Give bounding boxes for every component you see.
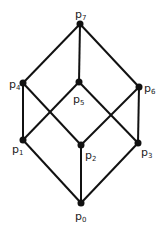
label-p4: p4 — [9, 78, 21, 92]
edge-p7-p4 — [23, 24, 80, 83]
label-p2: p2 — [85, 149, 96, 163]
node-p6 — [136, 84, 143, 91]
edge-p7-p5 — [79, 24, 80, 82]
hasse-diagram: p0p1p2p3p4p5p6p7 — [0, 0, 162, 233]
label-p5: p5 — [73, 93, 84, 107]
node-p5 — [76, 79, 83, 86]
label-p7: p7 — [75, 8, 86, 22]
edge-p5-p3 — [79, 82, 138, 143]
node-p2 — [78, 142, 85, 149]
labels-group: p0p1p2p3p4p5p6p7 — [9, 8, 156, 224]
label-p3: p3 — [141, 146, 152, 160]
node-p0 — [78, 200, 85, 207]
edge-p1-p0 — [23, 140, 81, 203]
node-p1 — [20, 137, 27, 144]
edges-group — [23, 24, 139, 203]
node-p4 — [20, 80, 27, 87]
edge-p6-p3 — [138, 87, 139, 143]
label-p1: p1 — [12, 143, 23, 157]
edge-p7-p6 — [80, 24, 139, 87]
label-p0: p0 — [75, 210, 86, 224]
label-p6: p6 — [144, 82, 156, 96]
